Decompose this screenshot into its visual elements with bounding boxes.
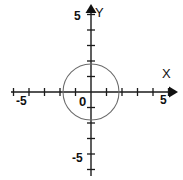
coordinate-plane-figure: Y X 5 -5 5 -5 0 [0,0,183,180]
x-axis-arrow-icon [169,87,178,98]
x-axis-tick-label-negative-5: -5 [16,95,27,107]
coordinate-plane-canvas [0,0,183,180]
x-axis-label: X [162,67,171,80]
x-axis-tick-label-positive-5: 5 [160,94,167,106]
y-axis-tick-label-positive-5: 5 [74,10,81,22]
y-axis-label: Y [95,6,104,19]
origin-label: 0 [79,95,86,108]
y-axis-tick-label-negative-5: -5 [72,152,83,164]
